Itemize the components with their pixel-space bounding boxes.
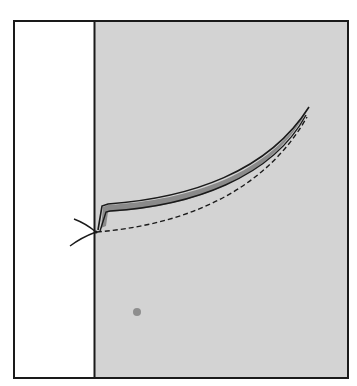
fabric-spot — [133, 308, 141, 316]
sewing-diagram — [0, 0, 357, 386]
white-panel — [14, 21, 94, 378]
thread-knot — [94, 230, 97, 233]
